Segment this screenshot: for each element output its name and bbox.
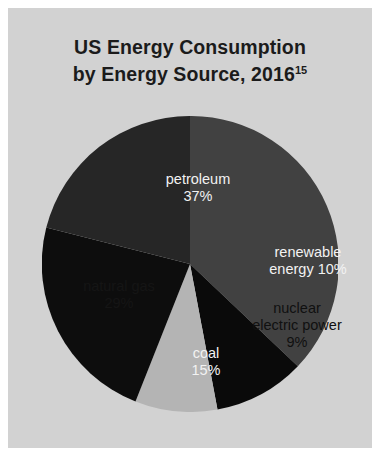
pie-chart: petroleum 37% renewable energy 10% nucle… (8, 8, 372, 448)
chart-panel: US Energy Consumption by Energy Source, … (8, 8, 372, 448)
pie-chart-svg (42, 116, 338, 412)
figure-root: US Energy Consumption by Energy Source, … (0, 0, 381, 456)
